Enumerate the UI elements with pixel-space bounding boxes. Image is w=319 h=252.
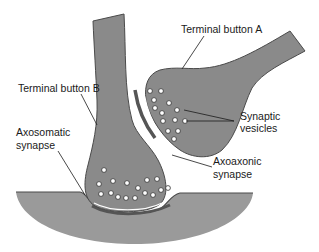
leader-axosomatic xyxy=(58,151,85,195)
label-terminal-button-a: Terminal button A xyxy=(181,23,262,35)
synapse-diagram: Terminal button A Terminal button B Syna… xyxy=(0,0,319,252)
label-axoaxonic-2: synapse xyxy=(213,168,252,180)
label-synaptic-vesicles-1: Synaptic xyxy=(240,110,280,122)
label-synaptic-vesicles-2: vesicles xyxy=(240,122,277,134)
terminal-button-a xyxy=(146,31,305,157)
label-axosomatic-2: synapse xyxy=(16,139,55,151)
leader-terminal-b xyxy=(81,94,97,125)
label-terminal-button-b: Terminal button B xyxy=(18,82,100,94)
leader-terminal-a xyxy=(182,36,204,69)
label-axoaxonic-1: Axoaxonic xyxy=(213,155,261,167)
label-axosomatic-1: Axosomatic xyxy=(16,126,70,138)
